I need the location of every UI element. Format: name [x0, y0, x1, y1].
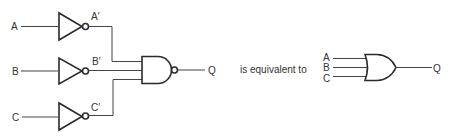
right-circuit: A B C Q — [323, 52, 441, 84]
nand-gate: Q — [142, 57, 216, 84]
input-c-branch: C C′ — [12, 80, 142, 131]
diagram-svg: A A′ B B′ C C′ — [0, 0, 458, 140]
inverted-b-label: B′ — [92, 56, 101, 67]
input-a-label: A — [11, 21, 18, 32]
inverter-a-icon — [59, 13, 82, 40]
or-gate-icon — [365, 55, 396, 81]
inverter-c-bubble-icon — [83, 113, 89, 119]
inverter-a-bubble-icon — [83, 24, 89, 30]
input-b-label: B — [12, 66, 19, 77]
input-a-branch: A A′ — [11, 11, 142, 62]
or-input-b-label: B — [323, 62, 330, 73]
inverter-b-bubble-icon — [83, 68, 89, 74]
or-input-c-label: C — [323, 73, 330, 84]
logic-equivalence-diagram: A A′ B B′ C C′ — [0, 0, 458, 140]
inverter-b-icon — [59, 58, 82, 84]
nand-output-label: Q — [208, 65, 216, 76]
or-output-label: Q — [433, 63, 441, 74]
nand-bubble-icon — [172, 67, 178, 73]
or-input-a-label: A — [323, 52, 330, 63]
inverted-c-label: C′ — [91, 102, 100, 113]
inverted-a-label: A′ — [91, 11, 100, 22]
equivalence-text: is equivalent to — [240, 64, 307, 75]
left-circuit: A A′ B B′ C C′ — [11, 11, 216, 130]
inverter-c-icon — [59, 103, 82, 130]
input-c-label: C — [12, 112, 19, 123]
nand-gate-icon — [142, 57, 172, 84]
